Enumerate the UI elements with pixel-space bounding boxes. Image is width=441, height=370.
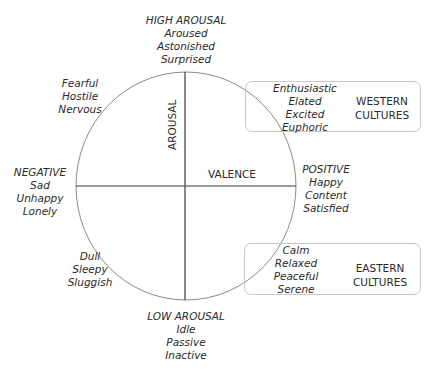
culture-label-line: WESTERN [347, 94, 417, 108]
emotion-word: Enthusiastic [270, 82, 340, 95]
emotion-word: Fearful [50, 77, 110, 90]
culture-label-line: EASTERN [345, 261, 415, 275]
emotion-word: Idle [128, 323, 244, 336]
emotion-word: Satisfied [296, 202, 356, 215]
emotion-word: Relaxed [266, 257, 326, 270]
emotion-word: Hostile [50, 90, 110, 103]
emotion-word: Passive [128, 336, 244, 349]
emotion-word: Astonished [128, 40, 244, 53]
lower-left-group: Dull Sleepy Sluggish [62, 250, 118, 289]
emotion-word: Aroused [128, 27, 244, 40]
emotion-word: Elated [270, 95, 340, 108]
positive-group: POSITIVE Happy Content Satisfied [296, 163, 356, 215]
arousal-axis-label: AROUSAL [166, 100, 178, 150]
eastern-cultures-label: EASTERN CULTURES [345, 261, 415, 289]
culture-label-line: CULTURES [345, 275, 415, 289]
emotion-word: Serene [266, 283, 326, 296]
emotion-word: Unhappy [10, 192, 70, 205]
valence-axis-label: VALENCE [208, 168, 256, 180]
emotion-word: Sleepy [62, 263, 118, 276]
positive-heading: POSITIVE [296, 163, 356, 176]
emotion-word: Sad [10, 179, 70, 192]
emotion-word: Calm [266, 244, 326, 257]
emotion-word: Inactive [128, 349, 244, 362]
negative-group: NEGATIVE Sad Unhappy Lonely [10, 166, 70, 218]
emotion-word: Content [296, 189, 356, 202]
emotion-word: Lonely [10, 205, 70, 218]
lower-right-group: Calm Relaxed Peaceful Serene [266, 244, 326, 296]
negative-heading: NEGATIVE [10, 166, 70, 179]
emotion-word: Dull [62, 250, 118, 263]
circumplex-diagram: AROUSAL VALENCE HIGH AROUSAL Aroused Ast… [0, 0, 441, 370]
emotion-word: Happy [296, 176, 356, 189]
culture-label-line: CULTURES [347, 108, 417, 122]
emotion-word: Excited [270, 108, 340, 121]
upper-left-group: Fearful Hostile Nervous [50, 77, 110, 116]
emotion-word: Nervous [50, 103, 110, 116]
high-arousal-heading: HIGH AROUSAL [128, 14, 244, 27]
low-arousal-group: LOW AROUSAL Idle Passive Inactive [128, 310, 244, 362]
emotion-word: Peaceful [266, 270, 326, 283]
high-arousal-group: HIGH AROUSAL Aroused Astonished Surprise… [128, 14, 244, 66]
emotion-word: Surprised [128, 53, 244, 66]
low-arousal-heading: LOW AROUSAL [128, 310, 244, 323]
emotion-word: Sluggish [62, 276, 118, 289]
western-cultures-label: WESTERN CULTURES [347, 94, 417, 122]
upper-right-group: Enthusiastic Elated Excited Euphoric [270, 82, 340, 134]
emotion-word: Euphoric [270, 121, 340, 134]
